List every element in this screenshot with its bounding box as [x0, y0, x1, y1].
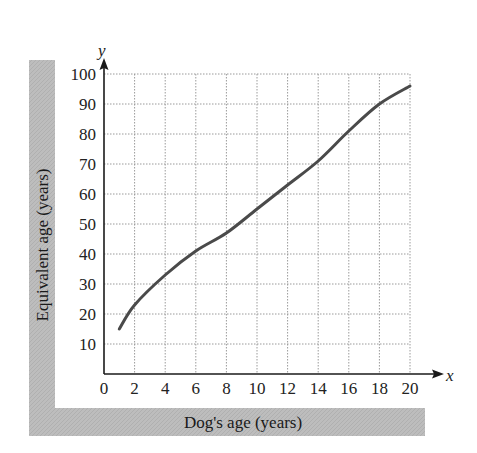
- x-tick-label: 0: [100, 379, 109, 398]
- x-tick-label: 16: [340, 379, 357, 398]
- x-tick-label: 10: [249, 379, 266, 398]
- y-tick-label: 100: [71, 65, 97, 84]
- y-axis-title: Equivalent age (years): [33, 169, 52, 322]
- x-axis-title: Dog's age (years): [184, 413, 302, 432]
- y-tick-label: 50: [79, 215, 96, 234]
- y-tick-label: 20: [79, 305, 96, 324]
- y-tick-label: 40: [79, 245, 96, 264]
- axes: [100, 58, 445, 379]
- x-tick-label: 6: [192, 379, 201, 398]
- x-axis-variable: x: [445, 366, 454, 385]
- x-tick-label: 14: [310, 379, 328, 398]
- data-curve: [119, 86, 410, 329]
- y-axis-variable: y: [96, 41, 106, 60]
- y-tick-label: 60: [79, 185, 96, 204]
- y-tick-label: 10: [79, 335, 96, 354]
- x-tick-label: 2: [130, 379, 139, 398]
- grid: [104, 74, 410, 374]
- y-tick-label: 30: [79, 275, 96, 294]
- y-tick-label: 90: [79, 95, 96, 114]
- x-tick-label: 18: [371, 379, 388, 398]
- y-tick-label: 80: [79, 125, 96, 144]
- x-tick-label: 4: [161, 379, 170, 398]
- x-tick-label: 12: [279, 379, 296, 398]
- chart: 02468101214161820102030405060708090100 x…: [0, 0, 477, 453]
- x-tick-label: 8: [222, 379, 231, 398]
- y-tick-label: 70: [79, 155, 96, 174]
- x-tick-label: 20: [402, 379, 419, 398]
